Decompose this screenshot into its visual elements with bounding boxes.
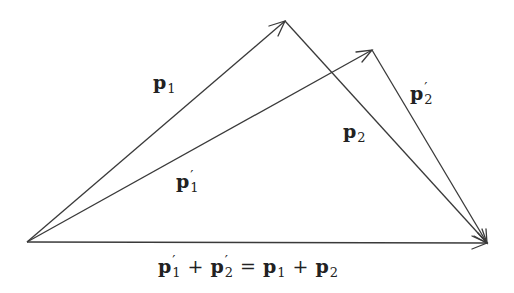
eq-term-p2-sub: 2 [330,265,338,280]
vector-p1 [27,21,285,242]
eq-equals-sign: = [240,255,256,277]
vector-p1-prime [27,50,372,242]
eq-term-p2-base: p [316,255,329,277]
vector-p2-prime [372,50,487,243]
label-p2-base: p [343,120,356,142]
eq-term-p1-prime-base: p [158,255,171,277]
eq-term-p2-prime-sub: 2 [225,265,233,280]
eq-term-p1-base: p [263,255,276,277]
label-p1-prime-base: p [176,170,189,192]
label-p2-prime-base: p [410,82,423,104]
eq-plus-sign-2: + [293,255,309,277]
label-p2-sub: 2 [357,130,365,145]
label-p2: p2 [343,122,366,141]
label-p2-prime: p′2 [410,84,433,103]
label-p1: p1 [153,73,176,92]
equation-momentum-conservation: p′1+p′2=p1+p2 [158,257,338,276]
label-p1-sub: 1 [167,81,175,96]
label-p1-prime-sub: 1 [190,180,198,195]
vector-p2 [285,21,487,243]
label-p1-base: p [153,71,166,93]
vector-diagram [0,0,514,293]
eq-term-p1-prime-sub: 1 [172,265,180,280]
eq-plus-sign: + [188,255,204,277]
eq-term-p2-prime-base: p [211,255,224,277]
eq-term-p1-sub: 1 [277,265,285,280]
label-p2-prime-sub: 2 [424,92,432,107]
vector-sum [27,242,487,243]
label-p1-prime: p′1 [176,172,199,191]
